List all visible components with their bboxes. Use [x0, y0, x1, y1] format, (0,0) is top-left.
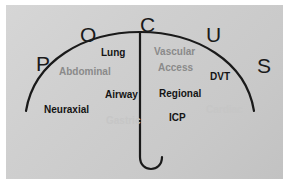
label-vascular: Vascular: [154, 47, 195, 57]
label-cardiac: Cardiac: [206, 105, 243, 115]
acronym-letter-p: P: [36, 53, 50, 74]
label-abdominal: Abdominal: [59, 67, 111, 77]
label-icp: ICP: [169, 113, 186, 123]
diagram-canvas: POCUS LungVascularAccessAbdominalDVTAirw…: [6, 5, 283, 179]
acronym-letter-c: C: [140, 14, 155, 35]
label-lung: Lung: [101, 48, 125, 58]
acronym-letter-s: S: [257, 55, 271, 76]
label-access: Access: [158, 63, 193, 73]
acronym-letter-o: O: [80, 24, 96, 45]
label-airway: Airway: [105, 90, 138, 100]
acronym-letter-u: U: [206, 24, 221, 45]
label-dvt: DVT: [210, 72, 230, 82]
label-regional: Regional: [159, 89, 201, 99]
label-neuraxial: Neuraxial: [44, 105, 89, 115]
pocus-umbrella-diagram: POCUS LungVascularAccessAbdominalDVTAirw…: [0, 0, 289, 186]
label-gastric: Gastric: [106, 116, 140, 126]
